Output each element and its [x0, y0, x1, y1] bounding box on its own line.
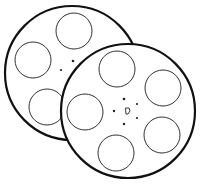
- back-reel-hub-dot: [72, 60, 75, 63]
- back-reel-hole: [56, 13, 92, 49]
- front-reel-hub-dot: [136, 117, 138, 119]
- front-reel-hole: [144, 117, 180, 153]
- front-reel-hole: [67, 94, 103, 130]
- back-reel-hole: [15, 42, 51, 78]
- front-reel-hole: [145, 70, 181, 106]
- front-reel-hole: [98, 135, 134, 171]
- front-reel-hub-dot: [123, 98, 126, 101]
- film-reels-illustration: [0, 0, 205, 190]
- front-reel-hub-dot: [123, 123, 125, 125]
- front-reel-hole: [99, 51, 135, 87]
- front-reel: [61, 44, 195, 178]
- back-reel-hub-dot: [60, 69, 62, 71]
- front-reel-hub-dot: [113, 110, 115, 112]
- back-reel-hole: [29, 89, 65, 125]
- front-reel-hub-dot: [136, 103, 138, 105]
